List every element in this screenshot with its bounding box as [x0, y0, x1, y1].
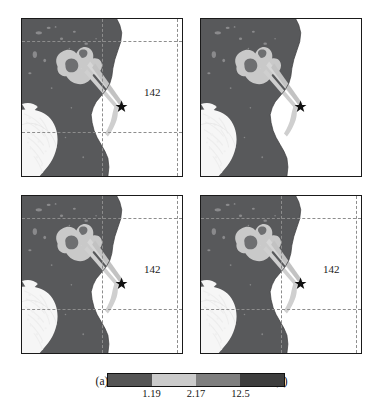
longitude-label: 142	[142, 87, 163, 99]
colorbar-segment-4	[240, 374, 284, 386]
colorbar-segment-1	[108, 374, 152, 386]
figure-panel-grid: 142	[0, 0, 385, 418]
colorbar-segment-3	[196, 374, 240, 386]
longitude-label: 142	[321, 264, 342, 276]
map-panel-bottom-right[interactable]: 142	[200, 195, 362, 354]
map-panel-top-left[interactable]: 142	[21, 18, 183, 177]
colorbar-strip	[107, 373, 285, 387]
longitude-label: 142	[142, 264, 163, 276]
map-image-top-right	[201, 19, 361, 176]
colorbar-tick-label: 2.17	[187, 388, 205, 399]
colorbar: 1.19 2.17 12.5	[107, 373, 285, 387]
colorbar-segment-2	[152, 374, 196, 386]
panel-row-bottom: 142	[0, 195, 385, 372]
map-panel-bottom-left[interactable]: 142	[21, 195, 183, 354]
map-panel-top-right[interactable]	[200, 18, 362, 177]
panel-row-top: 142	[0, 18, 385, 195]
colorbar-tick-label: 12.5	[231, 388, 249, 399]
map-canvas-top-right	[201, 19, 361, 176]
colorbar-tick-label: 1.19	[142, 388, 160, 399]
colorbar-tick-labels: 1.19 2.17 12.5	[107, 387, 285, 403]
